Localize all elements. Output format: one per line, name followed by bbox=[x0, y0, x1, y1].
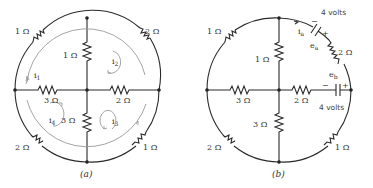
node-b-top bbox=[277, 16, 281, 20]
label-a-bottom-right: 1 Ω bbox=[143, 143, 158, 152]
label-b-center-top: 1 Ω bbox=[255, 55, 270, 64]
caption-a: (a) bbox=[80, 169, 93, 179]
node-a-left bbox=[13, 88, 17, 92]
label-b-top-left: 1 Ω bbox=[207, 27, 222, 36]
caption-b: (b) bbox=[272, 169, 285, 179]
node-a-right bbox=[157, 88, 161, 92]
arrow-ia-icon bbox=[294, 21, 298, 24]
label-b-left-horizontal: 3 Ω bbox=[236, 96, 251, 105]
panel-a: 1 Ω 2 Ω 1 Ω 3 Ω 2 Ω 3 Ω 2 Ω 1 Ω i1 i2 i3… bbox=[13, 10, 161, 179]
label-b-bottom-right: 1 Ω bbox=[335, 143, 350, 152]
source-eb-minus: − bbox=[322, 81, 329, 90]
node-a-bottom bbox=[85, 160, 89, 164]
current-i3: i3 bbox=[112, 117, 119, 127]
node-b-center bbox=[277, 88, 281, 92]
node-a-top bbox=[85, 16, 89, 20]
node-b-bottom bbox=[277, 160, 281, 164]
circuit-diagram: 1 Ω 2 Ω 1 Ω 3 Ω 2 Ω 3 Ω 2 Ω 1 Ω i1 i2 i3… bbox=[0, 0, 373, 188]
source-ea-label: ea bbox=[310, 41, 319, 51]
label-a-top-left: 1 Ω bbox=[15, 27, 30, 36]
resistor-b-top-left bbox=[225, 30, 236, 42]
node-b-left bbox=[205, 88, 209, 92]
current-i1: i1 bbox=[34, 71, 40, 81]
node-a-center bbox=[85, 88, 89, 92]
label-a-center-bottom: 3 Ω bbox=[61, 116, 76, 125]
panel-b: 1 Ω 2 Ω 1 Ω 3 Ω 2 Ω 3 Ω 2 Ω 1 Ω 4 volts … bbox=[205, 8, 353, 179]
label-a-top-right: 2 Ω bbox=[145, 27, 160, 36]
resistor-b-bottom-left bbox=[223, 135, 235, 143]
source-eb-plus: + bbox=[342, 81, 349, 90]
resistor-a-bottom-left bbox=[31, 135, 43, 143]
node-b-right bbox=[349, 88, 353, 92]
label-b-top-right: 2 Ω bbox=[338, 48, 353, 57]
source-ea-plus: + bbox=[322, 29, 329, 38]
current-i4: i4 bbox=[49, 116, 56, 126]
label-b-bottom-left: 2 Ω bbox=[207, 143, 222, 152]
source-eb-label: eb bbox=[329, 70, 338, 80]
source-eb-value: 4 volts bbox=[319, 103, 344, 112]
label-b-right-horizontal: 2 Ω bbox=[294, 96, 309, 105]
source-ea-value: 4 volts bbox=[321, 8, 346, 17]
label-a-right-horizontal: 2 Ω bbox=[116, 96, 131, 105]
label-a-left-horizontal: 3 Ω bbox=[44, 96, 59, 105]
resistor-a-top-left bbox=[33, 30, 44, 42]
label-b-center-bottom: 3 Ω bbox=[253, 120, 268, 129]
current-i2: i2 bbox=[112, 57, 119, 67]
current-ia: ia bbox=[298, 27, 305, 37]
label-a-center-top: 1 Ω bbox=[63, 51, 78, 60]
label-a-bottom-left: 2 Ω bbox=[15, 143, 30, 152]
source-ea-minus: − bbox=[311, 17, 318, 26]
